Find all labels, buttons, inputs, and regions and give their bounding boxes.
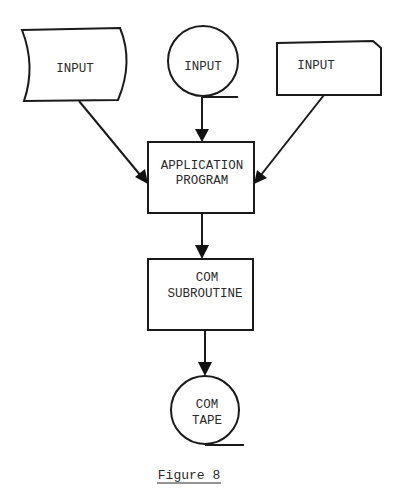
- flowchart-diagram: INPUT INPUT INPUT APPLICATION PROGRAM CO…: [0, 0, 405, 490]
- node-com-tape: COM TAPE: [171, 376, 244, 445]
- node-application-program: APPLICATION PROGRAM: [148, 142, 254, 213]
- edge-subroutine-to-com-tape: [198, 330, 212, 376]
- node-label-line1: COM: [196, 398, 219, 412]
- node-com-subroutine: COM SUBROUTINE: [148, 259, 253, 330]
- node-label-line1: APPLICATION: [161, 159, 244, 173]
- caption-text: Figure 8: [158, 468, 220, 483]
- node-label-line2: PROGRAM: [176, 174, 229, 188]
- edge-right-input-to-application: [254, 95, 324, 184]
- node-label: INPUT: [184, 60, 222, 74]
- edge-left-input-to-application: [79, 101, 148, 184]
- figure-caption: Figure 8: [157, 468, 221, 483]
- edge-center-input-to-application: [195, 97, 209, 142]
- node-label-line2: SUBROUTINE: [167, 287, 242, 301]
- edge-application-to-subroutine: [195, 213, 209, 259]
- node-input-magnetic-tape: INPUT: [168, 26, 238, 97]
- node-input-punched-card: INPUT: [277, 41, 381, 95]
- node-label-line1: COM: [196, 271, 219, 285]
- node-label: INPUT: [297, 59, 335, 73]
- node-label: INPUT: [56, 62, 94, 76]
- node-label-line2: TAPE: [192, 414, 222, 428]
- node-input-punched-tape: INPUT: [22, 28, 127, 101]
